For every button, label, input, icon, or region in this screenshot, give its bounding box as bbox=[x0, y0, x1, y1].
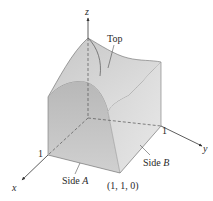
top-label: Top bbox=[107, 33, 122, 44]
y-axis bbox=[161, 126, 202, 146]
y-tick-1: 1 bbox=[162, 125, 167, 136]
x-axis bbox=[22, 155, 48, 180]
z-axis-label: z bbox=[84, 6, 89, 17]
y-axis-label: y bbox=[202, 143, 208, 154]
corner-point-label: (1, 1, 0) bbox=[107, 180, 139, 192]
side-a-label: Side A bbox=[62, 175, 89, 186]
side-b-label: Side B bbox=[143, 157, 169, 168]
side-a-leader bbox=[75, 163, 80, 174]
side-b-leader bbox=[140, 145, 150, 155]
x-tick-1: 1 bbox=[38, 148, 43, 159]
solid-region-diagram: z x y 1 1 Top Side A Side B (1, 1, 0) bbox=[0, 0, 213, 201]
x-axis-label: x bbox=[11, 182, 17, 193]
